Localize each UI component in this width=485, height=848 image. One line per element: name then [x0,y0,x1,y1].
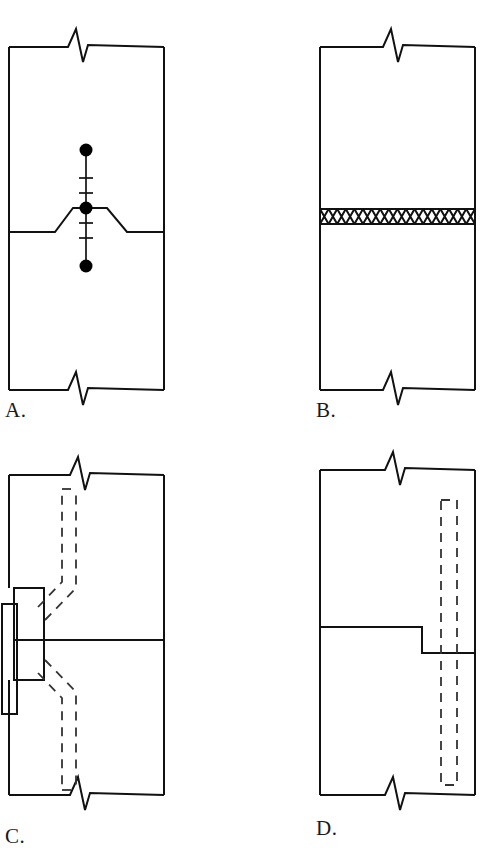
figure-sheet: A. [0,0,485,848]
panel-c-upper-conduit-outer-wall [38,489,62,607]
panel-b-bottom-break [320,372,475,405]
panel-c-outline [9,457,164,490]
panel-d-stepped-joint-line [320,627,475,653]
panel-a-detail [0,0,245,400]
panel-d-label: D. [316,818,337,839]
panel-c-upper-conduit-inner-wall [45,489,76,620]
panel-d-detail [240,440,485,848]
panel-a-bottom-break [9,372,164,405]
panel-a-outline [9,29,164,62]
panel-b-outline [320,29,475,62]
panel-a-node-dot-top [80,144,93,157]
panel-a-node-dot-bottom [80,260,93,273]
panel-d-bottom-break [320,777,475,810]
panel-c-detail [0,440,245,848]
panel-d-outline [320,452,475,485]
panel-c-inner-plate [14,588,44,680]
panel-c-bottom-break [9,777,164,810]
panel-c-label: C. [5,826,25,847]
panel-c-lower-conduit-inner-wall [45,660,76,790]
panel-d-hidden-dowel [441,500,457,785]
panel-a-node-dot-center [80,202,93,215]
panel-b-detail [240,0,485,400]
panel-b-label: B. [316,400,336,421]
panel-c-lower-conduit-outer-wall [38,673,62,790]
panel-a-label: A. [5,400,26,421]
panel-b-gasket-crosshatch [320,209,475,224]
